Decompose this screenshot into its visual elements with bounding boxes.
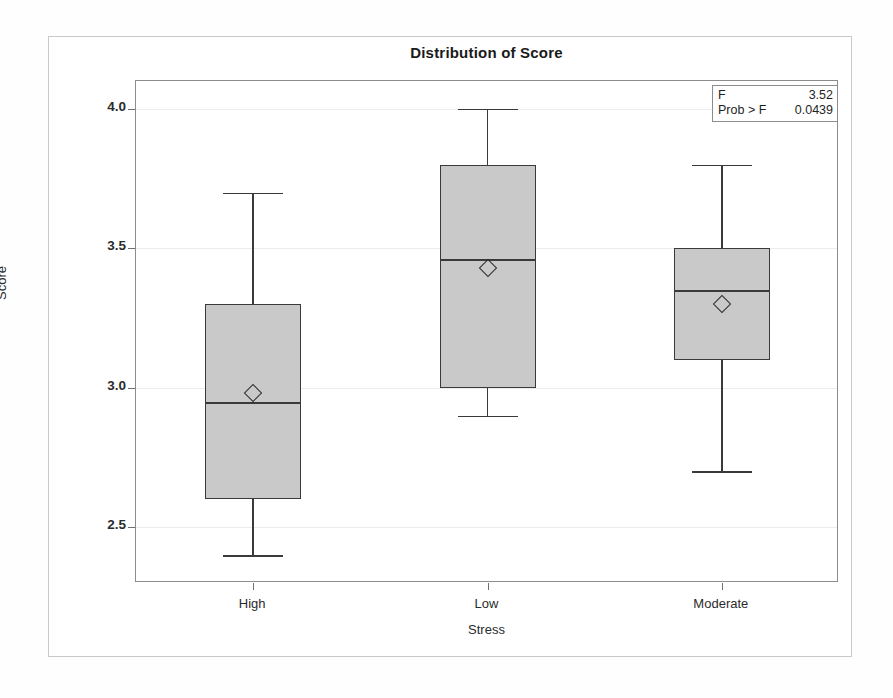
whisker-cap-lower [458,416,518,418]
y-tick-mark [128,527,135,528]
whisker-cap-upper [692,165,752,167]
x-tick-mark [722,583,723,590]
y-axis-tick-labels: 2.53.03.54.0 [78,80,126,582]
y-tick-label: 3.0 [107,378,126,393]
whisker-cap-upper [223,193,283,195]
y-tick-label: 2.5 [107,517,126,532]
median-line [674,290,770,292]
x-tick-label: High [239,596,266,611]
whisker-cap-upper [458,109,518,111]
y-tick-mark [128,248,135,249]
y-tick-mark [128,388,135,389]
prob-value: 0.0439 [795,103,833,118]
y-tick-label: 4.0 [107,99,126,114]
x-axis-title: Stress [135,622,838,637]
x-tick-label: Low [475,596,499,611]
stat-row-f: F 3.52 [718,88,833,103]
whisker-cap-lower [692,471,752,473]
plot-area: F 3.52 Prob > F 0.0439 [135,80,838,582]
y-tick-label: 3.5 [107,238,126,253]
prob-label: Prob > F [718,103,772,118]
gridline [136,527,837,528]
f-label: F [718,88,732,103]
chart-title: Distribution of Score [135,44,838,61]
x-tick-mark [488,583,489,590]
x-tick-label: Moderate [693,596,748,611]
whisker-cap-lower [223,555,283,557]
y-axis-title: Score [0,266,9,300]
x-tick-mark [253,583,254,590]
f-value: 3.52 [809,88,833,103]
statistics-annotation-box: F 3.52 Prob > F 0.0439 [712,85,838,122]
y-tick-mark [128,109,135,110]
chart-canvas: Distribution of Score 2.53.03.54.0 F 3.5… [0,0,893,698]
stat-row-prob: Prob > F 0.0439 [718,103,833,118]
